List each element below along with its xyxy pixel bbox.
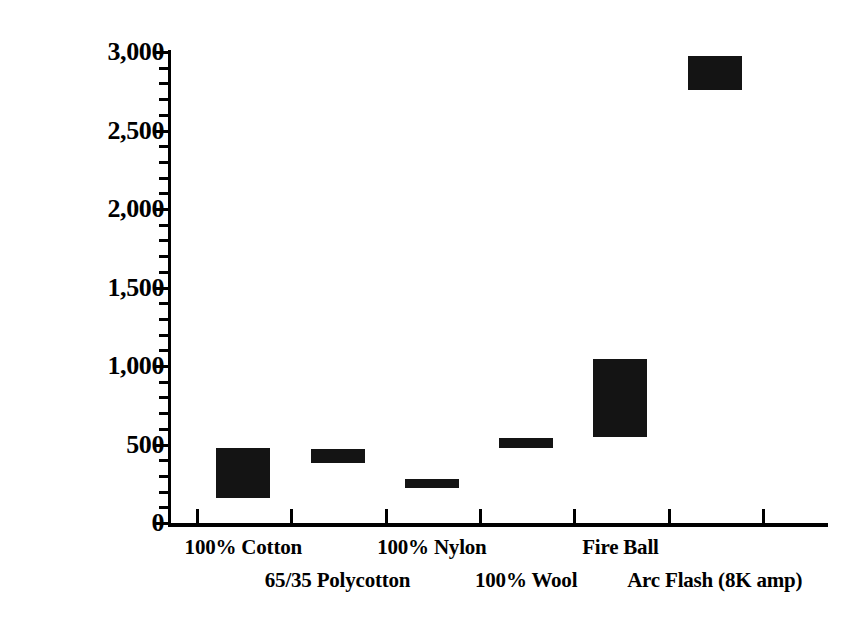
y-axis-minor-tick bbox=[159, 98, 171, 101]
x-axis-tick bbox=[573, 509, 576, 523]
x-axis-tick bbox=[290, 509, 293, 523]
y-axis-minor-tick bbox=[159, 255, 171, 258]
y-axis-tick-label: 0 bbox=[64, 510, 164, 536]
y-axis-major-tick bbox=[154, 208, 171, 211]
x-axis-tick bbox=[479, 509, 482, 523]
y-axis-minor-tick bbox=[159, 239, 171, 242]
y-axis-tick-label: 2,500 bbox=[64, 118, 164, 144]
y-axis-tick-labels: 3,0002,5002,0001,5001,0005000 bbox=[60, 0, 164, 622]
bar-100-wool bbox=[499, 438, 553, 448]
y-axis-minor-tick bbox=[159, 428, 171, 431]
x-axis-tick bbox=[762, 509, 765, 523]
y-axis-minor-tick bbox=[159, 192, 171, 195]
y-axis-minor-tick bbox=[159, 412, 171, 415]
y-axis-minor-tick bbox=[159, 349, 171, 352]
y-axis-minor-tick bbox=[159, 506, 171, 509]
y-axis-minor-tick bbox=[159, 271, 171, 274]
plot-area bbox=[168, 40, 828, 527]
y-axis-tick-label: 1,500 bbox=[64, 275, 164, 301]
y-axis-major-tick bbox=[154, 130, 171, 133]
y-axis-tick-label: 2,000 bbox=[64, 196, 164, 222]
y-axis-minor-tick bbox=[159, 114, 171, 117]
y-axis-major-tick bbox=[154, 51, 171, 54]
y-axis-minor-tick bbox=[159, 396, 171, 399]
bar-65-35-polycotton bbox=[311, 449, 365, 462]
y-axis-major-tick bbox=[154, 365, 171, 368]
x-axis-label-100-nylon: 100% Nylon bbox=[377, 535, 486, 560]
x-axis-tick bbox=[196, 509, 199, 523]
y-axis-major-tick bbox=[154, 287, 171, 290]
x-axis-label-fire-ball: Fire Ball bbox=[582, 535, 659, 560]
y-axis-tick-label: 1,000 bbox=[64, 353, 164, 379]
y-axis-minor-tick bbox=[159, 302, 171, 305]
y-axis-major-tick bbox=[154, 522, 171, 525]
y-axis-tick-label: 3,000 bbox=[64, 39, 164, 65]
y-axis-minor-tick bbox=[159, 177, 171, 180]
y-axis-minor-tick bbox=[159, 145, 171, 148]
bar-100-nylon bbox=[405, 479, 459, 488]
y-axis-minor-tick bbox=[159, 459, 171, 462]
y-axis-minor-tick bbox=[159, 334, 171, 337]
y-axis-tick-label: 500 bbox=[64, 432, 164, 458]
x-axis-label-65-35-polycotton: 65/35 Polycotton bbox=[265, 568, 411, 593]
y-axis-major-tick bbox=[154, 444, 171, 447]
range-bar-chart: Degrees Centigrade 3,0002,5002,0001,5001… bbox=[0, 0, 844, 622]
y-axis-minor-tick bbox=[159, 491, 171, 494]
y-axis-minor-tick bbox=[159, 318, 171, 321]
y-axis-minor-tick bbox=[159, 224, 171, 227]
bar-100-cotton bbox=[216, 448, 270, 498]
x-axis-label-arc-flash-8k-amp: Arc Flash (8K amp) bbox=[627, 568, 802, 593]
bar-fire-ball bbox=[593, 359, 647, 438]
y-axis-minor-tick bbox=[159, 82, 171, 85]
x-axis-label-100-cotton: 100% Cotton bbox=[185, 535, 302, 560]
x-axis-tick bbox=[668, 509, 671, 523]
y-axis-minor-tick bbox=[159, 161, 171, 164]
y-axis-minor-tick bbox=[159, 67, 171, 70]
x-axis-line bbox=[168, 523, 828, 527]
y-axis-minor-tick bbox=[159, 475, 171, 478]
bar-arc-flash-8k-amp bbox=[688, 56, 742, 90]
y-axis-minor-tick bbox=[159, 381, 171, 384]
x-axis-tick bbox=[385, 509, 388, 523]
x-axis-label-100-wool: 100% Wool bbox=[475, 568, 577, 593]
